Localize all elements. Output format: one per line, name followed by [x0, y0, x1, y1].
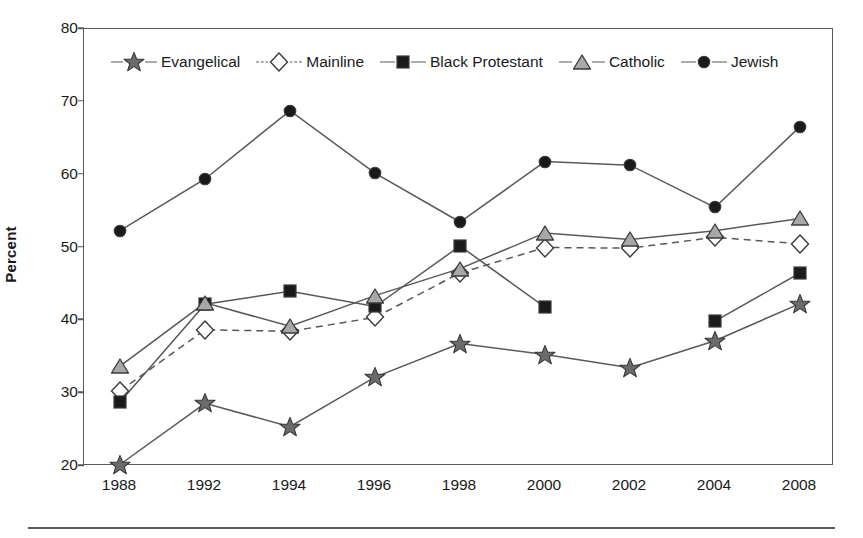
data-point-jewish [367, 165, 383, 181]
legend-label: Jewish [731, 53, 778, 71]
x-tick-label: 1992 [187, 476, 221, 494]
legend-entry-mainline: Mainline [256, 53, 364, 71]
data-point-evangelical [789, 293, 811, 315]
y-axis: Percent 20304050607080 [0, 0, 83, 538]
x-tick-label: 2000 [527, 476, 561, 494]
x-tick-label: 2002 [612, 476, 646, 494]
data-point-catholic [705, 222, 725, 240]
data-point-catholic [280, 317, 300, 335]
data-point-evangelical [534, 344, 556, 366]
legend-label: Mainline [306, 53, 364, 71]
plot-area: EvangelicalMainlineBlack ProtestantCatho… [83, 28, 833, 465]
x-tick-label: 1994 [272, 476, 306, 494]
data-point-evangelical [279, 416, 301, 438]
data-point-evangelical [704, 330, 726, 352]
data-point-evangelical [449, 333, 471, 355]
x-tick-label: 2004 [697, 476, 731, 494]
data-point-black-protestant [707, 313, 723, 329]
data-point-jewish [707, 199, 723, 215]
chart-figure: Percent 20304050607080 EvangelicalMainli… [0, 0, 863, 538]
series-line-black-protestant [715, 273, 800, 321]
chart-legend: EvangelicalMainlineBlack ProtestantCatho… [111, 53, 778, 71]
x-tick-label: 1996 [357, 476, 391, 494]
data-point-black-protestant [452, 238, 468, 254]
y-tick-label: 70 [0, 92, 78, 110]
y-tick-label: 30 [0, 383, 78, 401]
data-point-catholic [620, 230, 640, 248]
y-tick-label: 60 [0, 165, 78, 183]
data-point-jewish [452, 214, 468, 230]
star-marker-icon [111, 55, 157, 69]
legend-entry-black-protestant: Black Protestant [380, 53, 543, 71]
data-point-catholic [195, 294, 215, 312]
bottom-divider [28, 527, 835, 529]
data-point-catholic [790, 209, 810, 227]
legend-entry-evangelical: Evangelical [111, 53, 240, 71]
y-tick-label: 40 [0, 310, 78, 328]
data-point-catholic [450, 260, 470, 278]
data-point-evangelical [194, 392, 216, 414]
series-line-jewish [120, 111, 800, 231]
triangle-marker-icon [559, 55, 605, 69]
x-axis: 198819921994199619982000200220042008 [0, 470, 863, 510]
circle-marker-icon [681, 55, 727, 69]
data-point-evangelical [364, 366, 386, 388]
legend-entry-catholic: Catholic [559, 53, 665, 71]
series-line-evangelical [120, 304, 800, 465]
data-point-jewish [197, 171, 213, 187]
data-point-catholic [110, 357, 130, 375]
data-point-mainline [789, 233, 811, 255]
data-point-black-protestant [792, 265, 808, 281]
data-point-catholic [365, 287, 385, 305]
data-point-black-protestant [112, 394, 128, 410]
x-tick-label: 1988 [102, 476, 136, 494]
x-tick-label: 2008 [782, 476, 816, 494]
data-point-jewish [537, 154, 553, 170]
data-point-jewish [112, 223, 128, 239]
data-point-evangelical [619, 357, 641, 379]
legend-label: Evangelical [161, 53, 240, 71]
data-point-black-protestant [282, 283, 298, 299]
data-point-mainline [194, 319, 216, 341]
legend-label: Catholic [609, 53, 665, 71]
legend-label: Black Protestant [430, 53, 543, 71]
legend-entry-jewish: Jewish [681, 53, 778, 71]
data-point-jewish [792, 119, 808, 135]
y-tick-label: 80 [0, 19, 78, 37]
series-line-black-protestant [120, 246, 545, 402]
x-tick-label: 1998 [442, 476, 476, 494]
data-point-catholic [535, 224, 555, 242]
data-point-jewish [622, 157, 638, 173]
data-point-black-protestant [537, 299, 553, 315]
square-marker-icon [380, 55, 426, 69]
diamond-marker-icon [256, 55, 302, 69]
y-tick-label: 50 [0, 238, 78, 256]
data-point-jewish [282, 103, 298, 119]
